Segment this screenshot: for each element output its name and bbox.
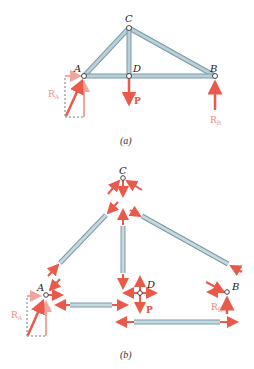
label-D: D [132, 63, 141, 74]
joint-B [213, 74, 218, 79]
reaction-RA-arrow [66, 81, 82, 116]
member-CB [129, 28, 215, 76]
label-RB-b: RB [211, 302, 223, 313]
joint-A-forces [27, 279, 62, 336]
label-RA-b: RA [11, 310, 23, 321]
part-a-truss: A C D B RA P RB [48, 13, 222, 126]
joint-D [127, 74, 132, 79]
joint-C [127, 26, 132, 31]
joint-B-b [225, 290, 230, 295]
label-A-b: A [36, 282, 44, 293]
caption-b: (b) [120, 349, 132, 361]
bar-AC [60, 215, 106, 263]
member-AC [84, 28, 129, 76]
label-B: B [209, 63, 217, 74]
label-P-b: P [146, 305, 153, 315]
joint-C-b [121, 176, 126, 181]
truss-diagram: A C D B RA P RB (a) [0, 0, 254, 369]
label-A: A [73, 63, 81, 74]
bar-CB [142, 216, 228, 264]
joint-D-b [138, 291, 143, 296]
caption-a: (a) [120, 135, 132, 147]
label-C-b: C [119, 165, 127, 176]
label-C: C [125, 13, 133, 24]
joint-A-b [44, 293, 49, 298]
label-RB: RB [210, 115, 222, 126]
part-b-free-body: C A D B RA P RB [11, 165, 242, 336]
joint-A [82, 74, 87, 79]
label-P: P [134, 96, 141, 106]
label-RA: RA [48, 89, 60, 100]
label-B-b: B [231, 281, 239, 292]
label-D-b: D [146, 279, 155, 290]
joint-C-forces [108, 180, 142, 196]
